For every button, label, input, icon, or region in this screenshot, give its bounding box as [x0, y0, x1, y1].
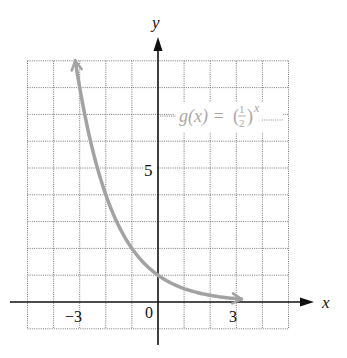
y-tick-5: 5	[144, 161, 153, 180]
fn-close-paren: )	[247, 106, 253, 127]
fn-numerator: 1	[239, 103, 245, 115]
x-axis-label: x	[321, 293, 330, 312]
x-tick-3: 3	[229, 308, 237, 325]
y-axis-arrow-icon	[154, 37, 163, 51]
fn-text-g: g(x) =	[179, 106, 225, 127]
x-axis-arrow-icon	[300, 298, 314, 307]
x-tick-0: 0	[145, 304, 153, 321]
fn-denominator: 2	[239, 117, 245, 129]
y-axis-label: y	[150, 13, 160, 32]
x-tick-neg3: −3	[65, 308, 82, 325]
function-label: g(x) = ( 1 2 ) x	[158, 101, 283, 132]
fn-exponent: x	[253, 101, 260, 115]
exponential-graph: x y −3 0 3 5 g(x) = ( 1 2 ) x	[0, 0, 347, 358]
